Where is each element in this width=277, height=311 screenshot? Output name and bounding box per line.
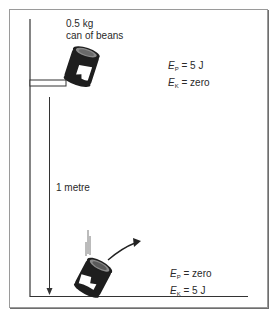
shelf xyxy=(30,80,66,86)
can-bottom xyxy=(72,255,114,301)
curved-motion-arrow xyxy=(108,238,141,260)
object-label: 0.5 kg can of beans xyxy=(66,18,123,42)
ek-value: = zero xyxy=(181,77,209,88)
object-name-label: can of beans xyxy=(66,30,123,42)
ep-symbol: E xyxy=(168,60,175,71)
top-kinetic-energy: EK = zero xyxy=(168,76,210,93)
ek-symbol: E xyxy=(168,77,175,88)
ep-sub: P xyxy=(177,274,181,280)
height-label: 1 metre xyxy=(56,182,90,194)
ek-value: = 5 J xyxy=(183,285,205,296)
ep-value: = 5 J xyxy=(181,60,203,71)
can-top xyxy=(63,44,102,90)
motion-lines xyxy=(86,230,90,256)
ek-symbol: E xyxy=(170,285,177,296)
height-arrow xyxy=(47,97,53,295)
scene xyxy=(0,0,277,311)
ep-value: = zero xyxy=(183,268,211,279)
ep-sub: P xyxy=(175,66,179,72)
top-energy-state: EP = 5 J EK = zero xyxy=(168,59,210,93)
top-potential-energy: EP = 5 J xyxy=(168,59,210,76)
bottom-energy-state: EP = zero EK = 5 J xyxy=(170,267,212,301)
mass-label: 0.5 kg xyxy=(66,18,123,30)
bottom-potential-energy: EP = zero xyxy=(170,267,212,284)
ep-symbol: E xyxy=(170,268,177,279)
ek-sub: K xyxy=(177,291,181,297)
bottom-kinetic-energy: EK = 5 J xyxy=(170,284,212,301)
ek-sub: K xyxy=(175,83,179,89)
